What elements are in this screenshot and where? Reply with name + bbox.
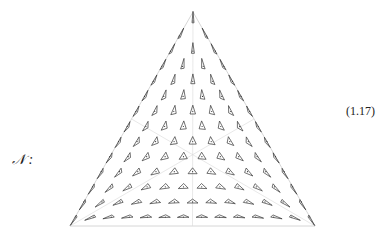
lattice-triangle [216, 184, 226, 190]
lattice-point [164, 126, 165, 127]
lattice-point [92, 186, 93, 187]
lattice-point [192, 111, 193, 112]
lattice-point [202, 96, 203, 97]
lattice-point [144, 96, 145, 97]
lattice-triangle [264, 137, 270, 147]
lattice-point [258, 126, 259, 127]
lattice-triangle [291, 184, 297, 194]
lattice-point [192, 171, 193, 172]
lattice-point [206, 36, 207, 37]
lattice-point [83, 201, 84, 202]
lattice-point [172, 81, 173, 82]
lattice-point [147, 216, 148, 217]
lattice-triangle [159, 215, 171, 218]
lattice-point [192, 81, 193, 82]
lattice-point [248, 141, 249, 142]
lattice-point [179, 36, 180, 37]
lattice-triangle [197, 184, 207, 189]
lattice-point [220, 126, 221, 127]
lattice-triangle [271, 215, 282, 219]
lattice-triangle [105, 184, 113, 193]
lattice-triangle [289, 215, 300, 220]
lattice-triangle [160, 59, 166, 69]
lattice-point [101, 201, 102, 202]
lattice-point [156, 201, 157, 202]
lattice-triangle [95, 199, 104, 207]
lattice-point [111, 216, 112, 217]
lattice-point [155, 171, 156, 172]
lattice-point [265, 171, 266, 172]
lattice-point [174, 141, 175, 142]
lattice-triangle [233, 215, 245, 218]
lattice-point [257, 156, 258, 157]
lattice-triangle [281, 199, 290, 207]
lattice-point [192, 141, 193, 142]
lattice-point [228, 201, 229, 202]
lattice-point [109, 156, 110, 157]
lattice-point [163, 96, 164, 97]
lattice-triangle [150, 199, 161, 204]
lattice-point [110, 186, 111, 187]
lattice-triangle [178, 184, 188, 189]
lattice-point [173, 111, 174, 112]
lattice-triangle [160, 184, 170, 190]
lattice-point [291, 216, 292, 217]
lattice-point [155, 141, 156, 142]
lattice-point [238, 156, 239, 157]
lattice-triangle [211, 74, 215, 84]
lattice-point [128, 156, 129, 157]
lattice-point [201, 186, 202, 187]
lattice-triangle [207, 168, 216, 175]
lattice-point [183, 186, 184, 187]
lattice-triangle [142, 90, 148, 100]
lattice-triangle [225, 199, 236, 204]
lattice-point [147, 186, 148, 187]
lattice-triangle [236, 152, 244, 160]
lattice-point [266, 141, 267, 142]
lattice-point [219, 186, 220, 187]
lattice-point [129, 216, 130, 217]
lattice-triangle [245, 168, 253, 176]
lattice-point [241, 96, 242, 97]
median-guide [70, 119, 254, 226]
lattice-triangle [161, 90, 166, 100]
lattice-triangle [133, 168, 141, 176]
lattice-point [221, 96, 222, 97]
lattice-point [249, 111, 250, 112]
lattice-triangle [161, 121, 167, 130]
lattice-triangle [171, 74, 175, 84]
lattice-triangle [181, 58, 184, 69]
lattice-triangle [169, 199, 180, 203]
lattice-triangle [226, 168, 235, 175]
lattice-point [232, 81, 233, 82]
lattice-triangle [217, 152, 225, 160]
lattice-point [273, 216, 274, 217]
lattice-triangle [169, 168, 178, 175]
lattice-triangle [253, 184, 262, 191]
lattice-point [118, 141, 119, 142]
lattice-point [301, 201, 302, 202]
lattice-point [183, 126, 184, 127]
lattice-triangle [140, 215, 152, 218]
lattice-triangle [255, 153, 262, 162]
lattice-triangle [246, 137, 252, 147]
lattice-point [192, 20, 193, 21]
lattice-triangle [243, 199, 254, 204]
lattice-triangle [252, 215, 264, 218]
lattice-triangle [229, 75, 235, 85]
lattice-point [101, 171, 102, 172]
lattice-point [192, 51, 193, 52]
lattice-point [215, 51, 216, 52]
lattice-point [211, 111, 212, 112]
lattice-triangle [85, 215, 96, 220]
lattice-point [238, 186, 239, 187]
lattice-point [161, 66, 162, 67]
lattice-triangle [202, 58, 206, 69]
lattice-point [137, 141, 138, 142]
lattice-point [256, 186, 257, 187]
lattice-point [229, 171, 230, 172]
lattice-triangle [235, 184, 245, 190]
lattice-triangle [115, 137, 121, 147]
lattice-triangle [206, 199, 217, 203]
lattice-triangle [103, 215, 114, 219]
